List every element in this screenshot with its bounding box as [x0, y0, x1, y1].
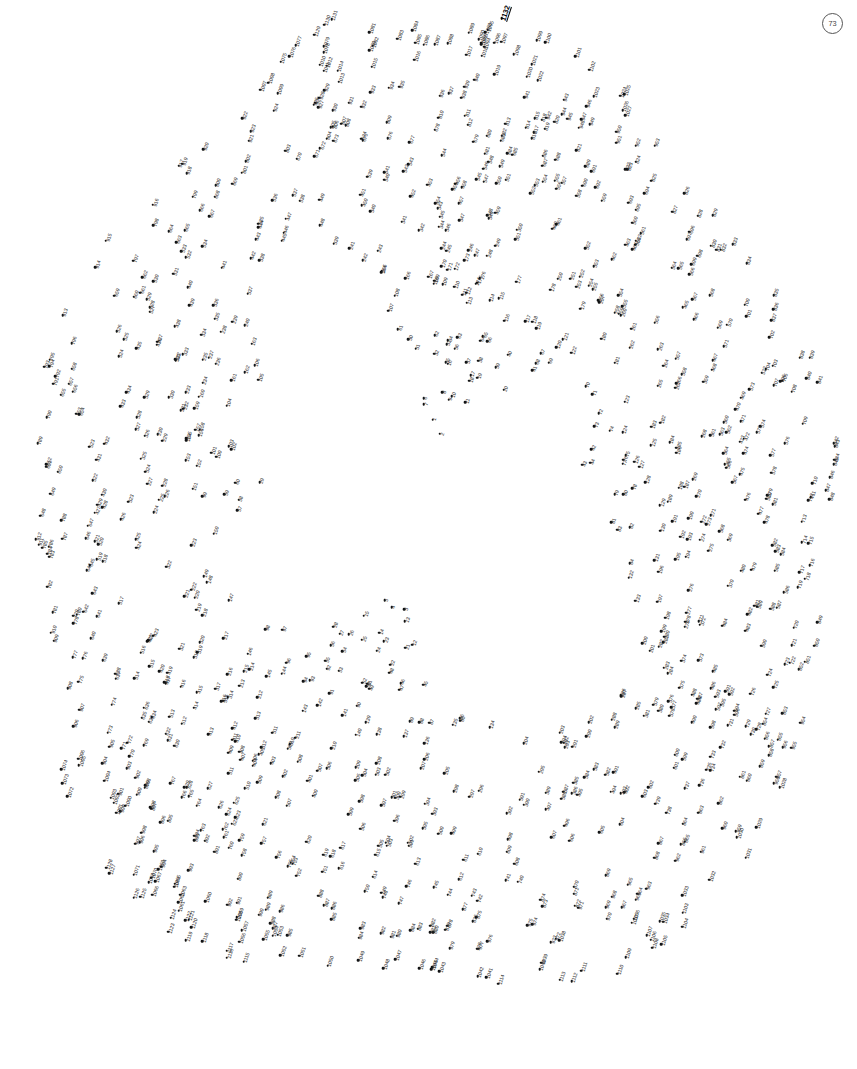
dot-label: 956 [782, 740, 789, 749]
dot-label: 839 [809, 350, 816, 359]
dot-label: 719 [797, 580, 804, 589]
dot-label: 400 [312, 789, 319, 798]
dot-label: 891 [214, 845, 221, 854]
dot-label: 547 [483, 174, 490, 183]
dot-label: 270 [696, 489, 703, 498]
dot-label: 354 [618, 288, 625, 297]
dot-label: 303 [375, 767, 382, 776]
dot-label: 216 [227, 667, 234, 676]
dot-label: 194 [685, 550, 692, 559]
dot-label: 177 [515, 275, 522, 284]
dot-label: 584 [780, 547, 787, 556]
dot-label: 202 [588, 715, 595, 724]
dot-label: 1032 [709, 870, 717, 882]
dot-label: 110 [453, 280, 460, 289]
dot-label: 525 [123, 332, 130, 341]
dot-label: 984 [358, 930, 365, 939]
dot-label: 159 [193, 401, 200, 410]
dot-label: 608 [513, 856, 520, 865]
dot-label: 142 [316, 698, 323, 707]
dot-label: 135 [452, 717, 459, 726]
dot-label: 123 [624, 395, 631, 404]
dot-label: 255 [592, 282, 599, 291]
dot-label: 368 [718, 524, 725, 533]
dot-label: 573 [748, 382, 755, 391]
dot-label: 457 [458, 196, 465, 205]
dot-label: 1025 [623, 84, 631, 96]
dot-label: 634 [151, 710, 158, 719]
dot-label: 654 [78, 407, 85, 416]
dot-label: 683 [500, 133, 507, 142]
dot-label: 971 [577, 901, 584, 910]
dot-label: 166 [405, 271, 412, 280]
dot-label: 963 [645, 881, 652, 890]
dot-label: 193 [686, 532, 693, 541]
dot-label: 1108 [651, 938, 659, 950]
dot-label: 884 [409, 923, 416, 932]
dot-label: 415 [196, 685, 203, 694]
dot-label: 569 [717, 320, 724, 329]
dot-field[interactable]: 1234567891011121314151617181920212223242… [0, 0, 857, 1069]
dot-label: 566 [688, 267, 695, 276]
dot-label: 267 [674, 380, 681, 389]
dot-label: 678 [434, 122, 441, 131]
dot-label: 130 [659, 523, 666, 532]
dot-label: 950 [616, 124, 623, 133]
dot-label: 981 [390, 930, 397, 939]
dot-label: 198 [664, 611, 671, 620]
dot-label: 548 [487, 155, 494, 164]
dot-label: 38 [478, 356, 485, 363]
dot-label: 833 [732, 237, 739, 246]
dot-label: 788 [61, 513, 68, 522]
dot-label: 966 [635, 892, 642, 901]
dot-label: 552 [529, 186, 536, 195]
dot-label: 701 [746, 309, 753, 318]
dot-label: 843 [834, 439, 841, 448]
dot-label: 750 [364, 884, 371, 893]
dot-label: 675 [362, 133, 369, 142]
dot-label: 946 [585, 99, 592, 108]
dot-label: 453 [426, 178, 433, 187]
dot-label: 909 [53, 633, 60, 642]
dot-label: 777 [72, 650, 79, 659]
dot-label: 744 [447, 888, 454, 897]
dot-label: 228 [161, 478, 168, 487]
dot-label: 291 [572, 739, 579, 748]
dot-label: 597 [715, 702, 722, 711]
dot-label: 983 [359, 921, 366, 930]
dot-label: 1066 [151, 885, 159, 897]
dot-label: 289 [614, 720, 621, 729]
dot-label: 948 [578, 120, 585, 129]
dot-label: 702 [768, 330, 775, 339]
dot-label: 1046 [419, 958, 427, 970]
dot-label: 81 [610, 517, 617, 524]
dot-label: 625 [233, 795, 240, 804]
dot-label: 72 [598, 409, 605, 416]
dot-label: 770 [128, 749, 135, 758]
dot-label: 20 [503, 385, 510, 392]
dot-label: 419 [166, 665, 173, 674]
dot-label: 558 [576, 189, 583, 198]
dot-label: 973 [550, 935, 557, 944]
dot-label: 1086 [423, 35, 431, 47]
dot-label: 511 [227, 766, 234, 775]
dot-label: 308 [297, 754, 304, 763]
dot-label: 517 [118, 596, 125, 605]
dot-label: 643 [91, 586, 98, 595]
dot-label: 685 [511, 147, 518, 156]
dot-label: 56 [330, 640, 337, 647]
dot-label: 187 [683, 479, 690, 488]
dot-label: 733 [709, 749, 716, 758]
dot-label: 323 [127, 494, 134, 503]
dot-label: 936 [439, 88, 446, 97]
dot-label: 330 [168, 390, 175, 399]
dot-label: 951 [615, 135, 622, 144]
dot-label: 356 [654, 315, 661, 324]
dot-label: 1050 [327, 956, 335, 968]
dot-label: 197 [656, 594, 663, 603]
dot-label: 820 [553, 114, 560, 123]
dot-label: 1041 [485, 967, 493, 979]
dot-label: 55 [324, 656, 331, 663]
dot-label: 304 [362, 768, 369, 777]
dot-label: 1049 [357, 951, 365, 963]
